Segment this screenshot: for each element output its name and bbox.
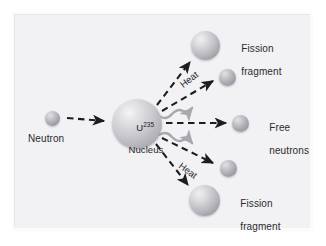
fission-fragment-bottom-sphere: [189, 185, 220, 216]
arrow-neutron-to-nucleus: [67, 118, 104, 121]
free-neutrons-line2: neutrons: [269, 145, 309, 156]
neutron-bottom-sphere: [220, 160, 237, 177]
incoming-neutron-sphere: [45, 111, 60, 126]
fission-diagram-figure: Neutron U235 Nucleus Fission fragment Fr…: [0, 0, 326, 246]
fission-fragment-bottom-line2: fragment: [240, 221, 280, 232]
uranium-nucleus-label: U235 Nucleus: [112, 111, 162, 166]
fission-fragment-top-sphere: [191, 31, 220, 60]
fission-fragment-bottom-line1: Fission: [240, 198, 272, 209]
arrow-nucleus-to-neutron-bottom: [162, 138, 213, 163]
fission-fragment-top-label: Fission fragment: [224, 31, 282, 89]
free-neutrons-label: Free neutrons: [252, 110, 309, 168]
free-neutrons-line1: Free: [269, 122, 290, 133]
fission-fragment-top-line2: fragment: [241, 66, 281, 77]
fission-fragment-bottom-label: Fission fragment: [223, 186, 281, 244]
diagram-stage: Neutron U235 Nucleus Fission fragment Fr…: [0, 0, 326, 246]
fission-fragment-top-line1: Fission: [241, 43, 273, 54]
incoming-neutron-label: Neutron: [28, 133, 64, 145]
nucleus-word: Nucleus: [128, 144, 163, 155]
uranium-mass-number: 235: [143, 121, 154, 128]
free-neutrons-sphere: [232, 115, 249, 132]
